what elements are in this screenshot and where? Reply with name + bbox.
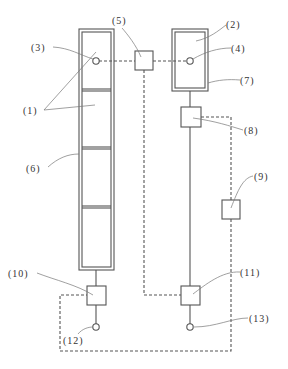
- label-12: (12): [63, 335, 84, 347]
- right-frame: [172, 29, 208, 91]
- box-9: [222, 200, 240, 219]
- label-2: (2): [226, 19, 241, 31]
- terminal-12-icon: [93, 324, 99, 330]
- box-5: [135, 51, 153, 70]
- box-8: [181, 107, 201, 127]
- label-1: (1): [23, 105, 38, 117]
- box-11: [181, 286, 200, 305]
- label-11: (11): [240, 267, 260, 279]
- label-8: (8): [244, 125, 259, 137]
- schematic-diagram: (3) (1) (6) (5) (2) (4) (7) (8) (9) (10)…: [0, 0, 288, 369]
- label-9: (9): [254, 171, 269, 183]
- label-7: (7): [240, 75, 255, 87]
- label-6: (6): [26, 163, 41, 175]
- box-10: [87, 286, 106, 305]
- terminal-13-icon: [187, 324, 193, 330]
- label-4: (4): [231, 43, 246, 55]
- label-10: (10): [8, 268, 29, 280]
- label-13: (13): [249, 313, 270, 325]
- label-5: (5): [112, 15, 127, 27]
- label-3: (3): [31, 42, 46, 54]
